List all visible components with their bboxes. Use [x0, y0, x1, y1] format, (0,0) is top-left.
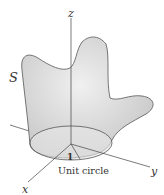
z-label: z — [67, 7, 74, 20]
radius-label: 1 — [67, 152, 73, 162]
surface-label: S — [9, 70, 18, 85]
y-label: y — [150, 165, 158, 178]
unit-circle-label: Unit circle — [58, 165, 109, 176]
surface-diagram: z x y S 1 Unit circle — [0, 0, 164, 195]
x-label: x — [22, 183, 29, 195]
